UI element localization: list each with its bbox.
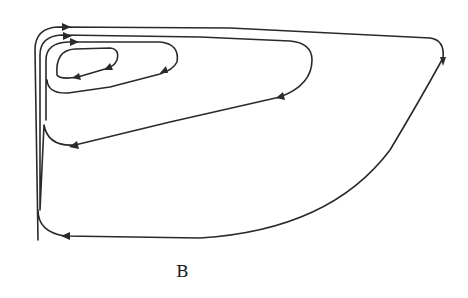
outer-loop: [35, 27, 443, 240]
inner-loop: [57, 48, 118, 78]
spiral-trajectory-diagram: [0, 0, 468, 298]
arrow-icon: [61, 232, 70, 240]
second-loop: [40, 35, 312, 210]
arrow-icon: [62, 23, 71, 31]
arrow-icon: [70, 38, 79, 46]
arrow-icon: [276, 92, 285, 100]
arrow-icon: [160, 66, 168, 73]
third-loop: [46, 42, 177, 120]
arrow-icon: [72, 73, 81, 80]
figure-label: B: [176, 261, 189, 281]
